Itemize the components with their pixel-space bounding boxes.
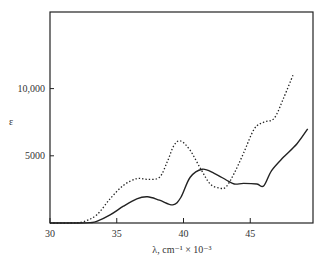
- y-tick-label: 10,000: [18, 83, 46, 94]
- x-tick-label: 45: [245, 228, 255, 239]
- x-tick-label: 30: [45, 228, 55, 239]
- x-axis-label: λ, cm⁻¹ × 10⁻³: [152, 244, 211, 255]
- y-axis-ticks: 500010,000: [18, 83, 55, 161]
- y-tick-label: 5000: [25, 150, 45, 161]
- x-tick-label: 35: [112, 228, 122, 239]
- x-axis-ticks: 30354045: [45, 218, 255, 239]
- x-tick-label: 40: [179, 228, 189, 239]
- series-layer: [50, 75, 308, 223]
- y-axis-label: ε: [9, 116, 13, 127]
- solid-series-line: [50, 129, 308, 223]
- spectrum-chart: 30354045 500010,000 λ, cm⁻¹ × 10⁻³ ε: [0, 0, 323, 264]
- plot-frame: [50, 12, 313, 223]
- dotted-series-line: [50, 75, 293, 223]
